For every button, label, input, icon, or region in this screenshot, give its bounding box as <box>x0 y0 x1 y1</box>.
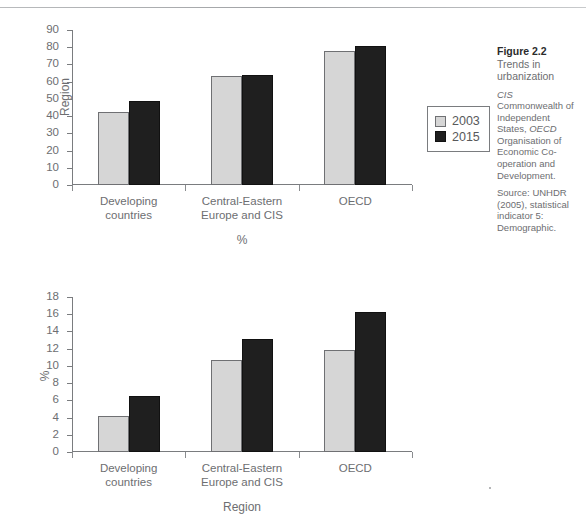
bar-2003[interactable] <box>324 51 355 185</box>
y-axis-tick: 12 <box>67 349 72 350</box>
x-axis-category-label: Central-Eastern Europe and CIS <box>177 461 307 489</box>
legend-item-2003[interactable]: 2003 <box>435 115 480 128</box>
y-axis-tick-label: 70 <box>46 59 59 71</box>
figure-2-2: Region % 9080706050403020100Developing c… <box>0 18 586 258</box>
figure-page: Region % 9080706050403020100Developing c… <box>0 0 586 527</box>
y-axis-tick: 70 <box>67 64 72 65</box>
legend-item-2015[interactable]: 2015 <box>435 131 480 144</box>
x-axis-tick <box>185 452 186 458</box>
bar-2015[interactable] <box>355 312 386 452</box>
y-axis-tick: 90 <box>67 30 72 31</box>
y-axis-tick-label: 0 <box>53 446 59 458</box>
x-axis-tick <box>412 185 413 191</box>
y-axis-title-1: Region <box>58 78 72 116</box>
legend-swatch-2003-icon <box>435 116 446 127</box>
legend-label-2003: 2003 <box>452 115 480 128</box>
y-axis-tick-label: 50 <box>46 93 59 105</box>
y-axis-tick-label: 40 <box>46 110 59 122</box>
bar-group <box>211 30 273 185</box>
y-axis-tick: 4 <box>67 418 72 419</box>
y-axis-tick-label: 30 <box>46 128 59 140</box>
y-axis-tick: 80 <box>67 47 72 48</box>
bar-group <box>211 297 273 452</box>
y-axis-tick: 18 <box>67 297 72 298</box>
legend-swatch-2015-icon <box>435 131 446 142</box>
y-axis-tick-label: 10 <box>46 360 59 372</box>
y-axis-tick: 20 <box>67 151 72 152</box>
y-axis-tick-label: 20 <box>46 145 59 157</box>
y-axis-tick: 50 <box>67 99 72 100</box>
y-axis-tick-label: 80 <box>46 41 59 53</box>
page-artifact-dot <box>489 487 491 489</box>
y-axis-tick-label: 10 <box>46 162 59 174</box>
y-axis-tick-label: 4 <box>53 412 59 424</box>
y-axis-tick: 2 <box>67 435 72 436</box>
y-axis-tick: 10 <box>67 366 72 367</box>
y-axis-tick-label: 16 <box>46 308 59 320</box>
caption-note-text-2: Organisation of Economic Co-operation an… <box>497 135 561 181</box>
y-axis-tick: 40 <box>67 116 72 117</box>
bar-2015[interactable] <box>129 396 160 452</box>
y-axis-tick-label: 12 <box>46 343 59 355</box>
x-axis-category-label: Developing countries <box>64 461 194 489</box>
y-axis-tick-label: 90 <box>46 24 59 36</box>
x-axis-tick <box>299 452 300 458</box>
caption-note-abbr-cis: CIS <box>497 89 513 100</box>
header-rule <box>0 7 586 8</box>
x-axis-category-label: Central-Eastern Europe and CIS <box>177 194 307 222</box>
bar-group <box>98 297 160 452</box>
bar-2003[interactable] <box>98 416 129 452</box>
bar-2003[interactable] <box>324 350 355 452</box>
chart-plot-area-1: Region % 9080706050403020100Developing c… <box>72 30 412 185</box>
x-axis-title-1: % <box>237 233 248 247</box>
y-axis-tick: 8 <box>67 383 72 384</box>
x-axis-tick <box>185 185 186 191</box>
bar-2015[interactable] <box>355 46 386 185</box>
y-axis-tick: 6 <box>67 400 72 401</box>
y-axis-tick: 30 <box>67 133 72 134</box>
figure-caption-1: Figure 2.2 Trends in urbanization CIS Co… <box>497 45 581 234</box>
y-axis-line-1 <box>72 30 73 185</box>
y-axis-tick-label: 6 <box>53 395 59 407</box>
caption-source-1: Source: UNHDR (2005), statistical indica… <box>497 187 581 233</box>
y-axis-tick: 16 <box>67 314 72 315</box>
bar-2003[interactable] <box>98 112 129 185</box>
caption-figure-number-1: Figure 2.2 <box>497 45 581 58</box>
x-axis-tick <box>412 452 413 458</box>
y-axis-tick: 10 <box>67 168 72 169</box>
y-axis-tick-label: 0 <box>53 179 59 191</box>
y-axis-tick-label: 14 <box>46 326 59 338</box>
bar-2015[interactable] <box>242 339 273 452</box>
bar-2015[interactable] <box>242 75 273 185</box>
bar-2003[interactable] <box>211 360 242 452</box>
x-axis-category-label: OECD <box>290 461 420 475</box>
x-axis-category-label: Developing countries <box>64 194 194 222</box>
caption-note-abbr-oecd: OECD <box>529 123 556 134</box>
bar-2015[interactable] <box>129 101 160 185</box>
chart-legend-1: 2003 2015 <box>427 106 490 152</box>
x-axis-title-2: Region <box>223 500 261 514</box>
bar-group <box>98 30 160 185</box>
x-axis-category-label: OECD <box>290 194 420 208</box>
bar-group <box>324 30 386 185</box>
y-axis-tick: 14 <box>67 331 72 332</box>
figure-2-3: % Region 181614121086420Developing count… <box>0 285 586 527</box>
y-axis-tick-label: 60 <box>46 76 59 88</box>
y-axis-tick-label: 2 <box>53 429 59 441</box>
y-axis-line-2 <box>72 297 73 452</box>
legend-label-2015: 2015 <box>452 131 480 144</box>
bar-2003[interactable] <box>211 76 242 185</box>
y-axis-tick-label: 18 <box>46 291 59 303</box>
x-axis-tick <box>72 185 73 191</box>
x-axis-tick <box>299 185 300 191</box>
y-axis-title-2: % <box>38 371 52 382</box>
x-axis-tick <box>72 452 73 458</box>
y-axis-tick-label: 8 <box>53 377 59 389</box>
caption-title-1: Trends in urbanization <box>497 58 581 83</box>
y-axis-tick: 60 <box>67 82 72 83</box>
bar-group <box>324 297 386 452</box>
chart-plot-area-2: % Region 181614121086420Developing count… <box>72 297 412 452</box>
caption-note-1: CIS Commonwealth of Independent States, … <box>497 89 581 182</box>
